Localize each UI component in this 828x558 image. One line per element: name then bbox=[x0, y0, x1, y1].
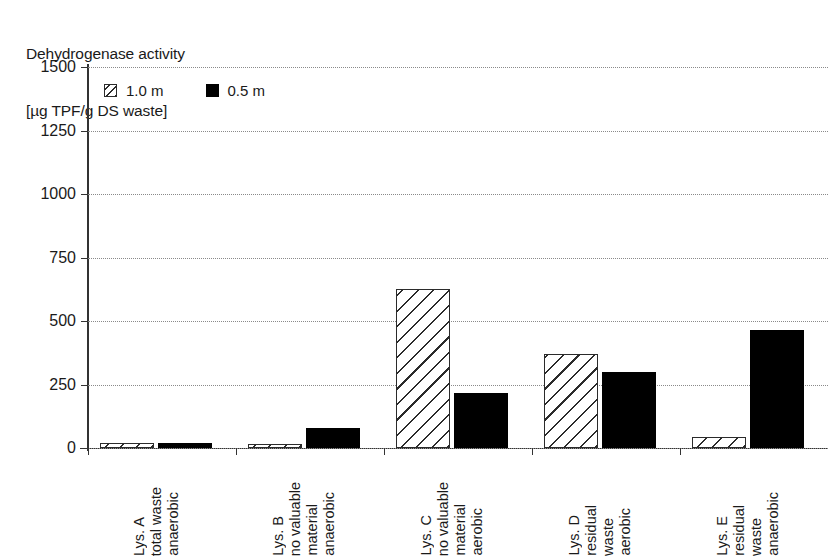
y-axis-tick-label: 1500 bbox=[40, 58, 76, 76]
y-axis-tick-mark bbox=[81, 385, 88, 386]
x-axis-tick-mark bbox=[236, 448, 237, 455]
y-axis-tick-label: 1000 bbox=[40, 185, 76, 203]
bar-0-5-m-4 bbox=[750, 330, 804, 448]
bar-0-5-m-1 bbox=[306, 428, 360, 448]
y-axis-tick-label: 1250 bbox=[40, 122, 76, 140]
bar-0-5-m-2 bbox=[454, 393, 508, 448]
gridline bbox=[88, 448, 828, 449]
legend-item-0: 1.0 m bbox=[104, 82, 164, 99]
y-axis-tick-label: 500 bbox=[49, 312, 76, 330]
category-label-line: no valuable bbox=[435, 482, 451, 556]
category-label-line: material bbox=[304, 504, 320, 556]
category-label-line: anaerobic bbox=[165, 492, 181, 556]
y-axis-tick-mark bbox=[81, 321, 88, 322]
x-axis-tick-mark bbox=[680, 448, 681, 455]
x-axis-tick-mark bbox=[88, 448, 89, 455]
solid-square-icon bbox=[206, 84, 219, 97]
bar-1-0-m-1 bbox=[248, 444, 302, 448]
category-label-3: Lys. Dresidualwasteaerobic bbox=[566, 456, 634, 556]
category-label-0: Lys. Atotal wasteanaerobic bbox=[131, 456, 182, 556]
plot-area bbox=[88, 67, 828, 448]
y-axis-tick-label: 250 bbox=[49, 376, 76, 394]
gridline bbox=[88, 131, 828, 132]
category-label-line: aerobic bbox=[469, 508, 485, 556]
x-axis-tick-mark bbox=[532, 448, 533, 455]
y-axis-tick-mark bbox=[81, 131, 88, 132]
y-axis-tick-mark bbox=[81, 67, 88, 68]
chart-legend: 1.0 m0.5 m bbox=[104, 82, 265, 99]
legend-label: 1.0 m bbox=[126, 82, 164, 99]
x-axis-tick-mark bbox=[384, 448, 385, 455]
category-label-line: residual bbox=[583, 505, 599, 556]
category-label-line: Lys. C bbox=[418, 515, 434, 556]
hatched-square-icon bbox=[104, 84, 117, 97]
category-label-line: anaerobic bbox=[765, 492, 781, 556]
y-axis-tick-labels: 0250500750100012501500 bbox=[0, 67, 76, 448]
category-label-line: Lys. E bbox=[714, 516, 730, 556]
category-label-line: waste bbox=[748, 518, 764, 556]
category-label-line: no valuable bbox=[287, 482, 303, 556]
category-label-4: Lys. Eresidualwasteanaerobic bbox=[714, 456, 782, 556]
bar-1-0-m-3 bbox=[544, 354, 598, 448]
gridline bbox=[88, 258, 828, 259]
category-label-1: Lys. Bno valuablematerialanaerobic bbox=[270, 456, 338, 556]
legend-item-1: 0.5 m bbox=[206, 82, 266, 99]
bar-0-5-m-0 bbox=[158, 443, 212, 448]
category-label-line: anaerobic bbox=[321, 492, 337, 556]
y-axis-tick-label: 750 bbox=[49, 249, 76, 267]
category-label-line: Lys. D bbox=[566, 515, 582, 556]
gridline bbox=[88, 67, 828, 68]
legend-label: 0.5 m bbox=[228, 82, 266, 99]
category-label-line: material bbox=[452, 504, 468, 556]
category-label-line: total waste bbox=[148, 487, 164, 556]
y-axis-tick-mark bbox=[81, 194, 88, 195]
bar-1-0-m-4 bbox=[692, 437, 746, 448]
category-label-line: residual bbox=[731, 505, 747, 556]
bar-1-0-m-2 bbox=[396, 289, 450, 448]
y-axis-tick-label: 0 bbox=[67, 439, 76, 457]
category-label-line: Lys. A bbox=[131, 517, 147, 556]
dehydrogenase-activity-bar-chart: Dehydrogenase activity [µg TPF/g DS wast… bbox=[0, 0, 828, 558]
x-axis-category-labels: Lys. Atotal wasteanaerobicLys. Bno valua… bbox=[0, 456, 828, 558]
bar-0-5-m-3 bbox=[602, 372, 656, 448]
category-label-line: Lys. B bbox=[270, 516, 286, 556]
gridline bbox=[88, 321, 828, 322]
gridline bbox=[88, 385, 828, 386]
gridline bbox=[88, 194, 828, 195]
y-axis-tick-mark bbox=[81, 448, 88, 449]
category-label-2: Lys. Cno valuablematerialaerobic bbox=[418, 456, 486, 556]
y-axis-tick-mark bbox=[81, 258, 88, 259]
bar-1-0-m-0 bbox=[100, 443, 154, 448]
category-label-line: aerobic bbox=[617, 508, 633, 556]
category-label-line: waste bbox=[600, 518, 616, 556]
